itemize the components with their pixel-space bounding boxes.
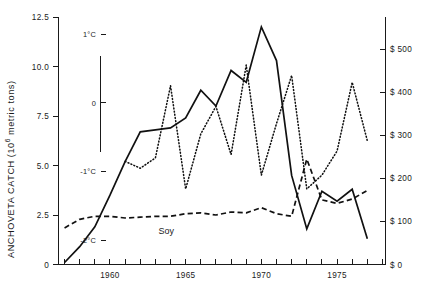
left-axis: 02.55.07.510.012.5 — [32, 13, 59, 270]
temperature-tick-label: -1°C — [80, 167, 96, 176]
series-anchoveta-catch — [65, 27, 368, 263]
left-axis-title: ANCHOVETA CATCH (106 metric tons) — [4, 80, 16, 258]
left-tick-label: 7.5 — [37, 112, 49, 121]
right-tick-label: $ 500 — [390, 45, 412, 54]
left-axis-title-tail: metric tons) — [6, 80, 16, 138]
left-axis-ticks — [53, 17, 59, 265]
left-axis-title-main: ANCHOVETA CATCH (10 — [6, 142, 16, 258]
left-tick-label: 10.0 — [32, 63, 49, 72]
year-label: 1960 — [100, 271, 120, 280]
bottom-axis: 1960196519701975 — [59, 259, 386, 280]
left-tick-label: 2.5 — [37, 211, 49, 220]
right-tick-label: $ 100 — [390, 217, 412, 226]
bottom-axis-ticks — [65, 259, 383, 265]
temperature-axis-tick-labels: -2°C-1°C01°C — [80, 30, 96, 245]
svg-text:ANCHOVETA CATCH (106 metric to: ANCHOVETA CATCH (106 metric tons) — [4, 80, 16, 258]
anchoveta-catch-chart: ANCHOVETA CATCH (106 metric tons) 02.55.… — [0, 0, 427, 290]
bottom-axis-tick-labels: 1960196519701975 — [100, 271, 347, 280]
left-tick-label: 0 — [44, 261, 49, 270]
soy-series-annotation: Soy — [158, 226, 174, 236]
soy-label: Soy — [158, 226, 174, 236]
data-series-group — [65, 27, 368, 263]
right-tick-label: $ 300 — [390, 131, 412, 140]
left-tick-label: 5.0 — [37, 162, 49, 171]
temperature-tick-label: 1°C — [83, 30, 96, 39]
left-tick-label: 12.5 — [32, 13, 49, 22]
right-axis-tick-labels: $ 500$ 400$ 300$ 200$ 100$ 0 — [390, 45, 412, 269]
temperature-tick-label: 0 — [92, 99, 96, 108]
year-label: 1970 — [252, 271, 272, 280]
year-label: 1965 — [176, 271, 196, 280]
right-tick-label: $ 200 — [390, 174, 412, 183]
right-axis-ticks — [380, 49, 386, 264]
right-axis: $ 500$ 400$ 300$ 200$ 100$ 0 — [380, 17, 412, 270]
chart-canvas: ANCHOVETA CATCH (106 metric tons) 02.55.… — [0, 0, 427, 290]
right-tick-label: $ 400 — [390, 88, 412, 97]
series-sea-surface-temperature — [125, 65, 367, 189]
left-axis-tick-labels: 02.55.07.510.012.5 — [32, 13, 49, 270]
right-tick-label: $ 0 — [390, 261, 402, 270]
year-label: 1975 — [327, 271, 347, 280]
